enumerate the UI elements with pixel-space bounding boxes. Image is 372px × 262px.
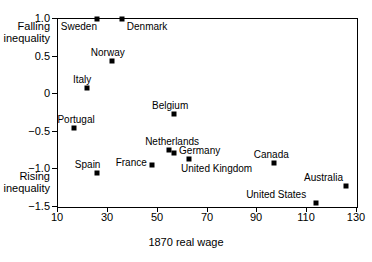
data-point-label: Australia	[304, 173, 343, 183]
y-tick-label: −1.5	[28, 201, 50, 212]
y-tick-mark	[52, 168, 57, 169]
data-point-marker	[172, 151, 177, 156]
axis-annotation-line: Falling	[4, 20, 50, 32]
x-tick-label: 110	[297, 212, 315, 223]
data-point-marker	[94, 170, 99, 175]
scatter-chart: 1.00.50−0.5−1.0−1.5 1030507090110130 Fal…	[0, 0, 372, 262]
x-tick-label: 50	[151, 212, 163, 223]
x-tick-label: 90	[250, 212, 262, 223]
data-point-label: France	[116, 158, 147, 168]
data-point-label: Italy	[73, 75, 91, 85]
data-point-marker	[72, 125, 77, 130]
data-point-label: Belgium	[152, 101, 188, 111]
data-point-label: Portugal	[57, 115, 94, 125]
data-point-label: United States	[246, 190, 306, 200]
x-tick-label: 30	[101, 212, 113, 223]
data-point-marker	[187, 156, 192, 161]
x-axis-title: 1870 real wage	[0, 236, 372, 248]
data-point-marker	[271, 161, 276, 166]
y-tick-label: 0.5	[35, 51, 50, 62]
data-point-label: Canada	[254, 150, 289, 160]
data-point-label: Norway	[91, 48, 125, 58]
data-point-label: Spain	[75, 160, 101, 170]
axis-annotation: Fallinginequality	[4, 20, 50, 44]
axis-annotation: Risinginequality	[4, 170, 50, 194]
data-point-label: United Kingdom	[181, 164, 252, 174]
y-tick-label: 0	[44, 88, 50, 99]
y-tick-label: −0.5	[28, 126, 50, 137]
y-tick-mark	[52, 18, 57, 19]
axis-annotation-line: inequality	[4, 182, 50, 194]
axis-annotation-line: Rising	[4, 170, 50, 182]
y-tick-mark	[52, 131, 57, 132]
data-point-label: Denmark	[127, 22, 168, 32]
x-tick-label: 10	[51, 212, 63, 223]
y-tick-mark	[52, 56, 57, 57]
data-point-marker	[314, 200, 319, 205]
data-point-marker	[84, 85, 89, 90]
x-tick-label: 130	[347, 212, 365, 223]
data-point-label: Sweden	[61, 22, 97, 32]
x-tick-label: 70	[201, 212, 213, 223]
y-tick-mark	[52, 93, 57, 94]
data-point-marker	[149, 162, 154, 167]
data-point-marker	[344, 184, 349, 189]
data-point-marker	[172, 112, 177, 117]
data-point-label: Germany	[179, 146, 220, 156]
data-point-marker	[119, 16, 124, 21]
axis-annotation-line: inequality	[4, 32, 50, 44]
data-point-marker	[109, 58, 114, 63]
